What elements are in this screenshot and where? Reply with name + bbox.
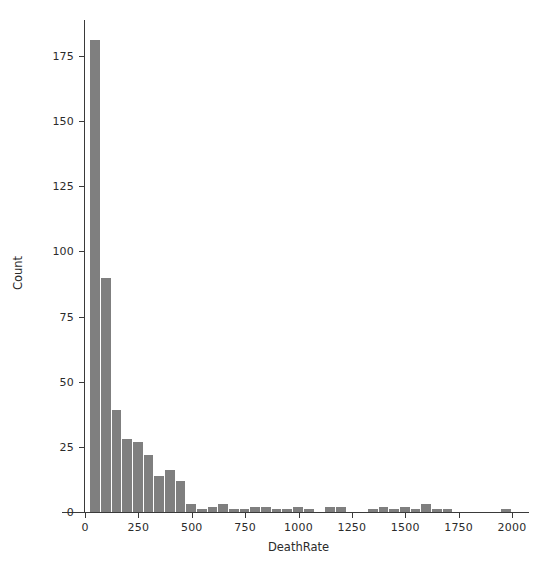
histogram-bar: [90, 40, 100, 512]
y-axis-line: [84, 20, 85, 513]
y-tick-mark: [79, 56, 84, 57]
histogram-bar: [176, 481, 186, 512]
y-tick-mark: [79, 512, 84, 513]
y-tick-label-group: 0255075100125150175: [22, 0, 74, 569]
x-tick-mark: [299, 513, 300, 518]
x-tick-label: 0: [55, 521, 115, 534]
y-tick-label: 0: [24, 506, 74, 519]
x-tick-mark: [245, 513, 246, 518]
y-tick-mark: [79, 317, 84, 318]
histogram-bar: [122, 439, 132, 512]
y-tick-label: 50: [24, 375, 74, 388]
histogram-bar: [133, 442, 143, 512]
x-tick-label: 1500: [375, 521, 435, 534]
x-tick-mark: [85, 513, 86, 518]
histogram-bar: [165, 470, 175, 512]
histogram-bar: [101, 278, 111, 513]
histogram-bar: [144, 455, 154, 512]
histogram-figure: 0255075100125150175 Count DeathRate 0250…: [0, 0, 549, 569]
y-tick-label: 175: [24, 50, 74, 63]
y-tick-mark: [79, 447, 84, 448]
x-tick-label: 1000: [269, 521, 329, 534]
x-tick-mark: [138, 513, 139, 518]
histogram-bar: [218, 504, 228, 512]
histogram-bar: [154, 476, 164, 512]
y-tick-label: 125: [24, 180, 74, 193]
plot-area: [85, 20, 512, 512]
y-tick-mark: [79, 186, 84, 187]
x-tick-label: 500: [162, 521, 222, 534]
histogram-bar: [186, 504, 196, 512]
x-tick-label: 1250: [322, 521, 382, 534]
y-tick-mark: [79, 251, 84, 252]
x-tick-label: 1750: [429, 521, 489, 534]
histogram-bar: [112, 410, 122, 512]
y-tick-label: 150: [24, 115, 74, 128]
y-tick-label: 25: [24, 440, 74, 453]
y-axis-title: Count: [11, 243, 25, 303]
y-tick-label: 100: [24, 245, 74, 258]
x-tick-mark: [405, 513, 406, 518]
histogram-bar: [421, 504, 431, 512]
y-tick-label: 75: [24, 310, 74, 323]
y-tick-mark: [79, 382, 84, 383]
x-tick-mark: [192, 513, 193, 518]
x-axis-title: DeathRate: [85, 540, 512, 554]
x-tick-label: 750: [215, 521, 275, 534]
x-tick-mark: [512, 513, 513, 518]
x-tick-label: 2000: [482, 521, 542, 534]
x-tick-mark: [459, 513, 460, 518]
x-tick-label: 250: [108, 521, 168, 534]
y-tick-mark: [79, 121, 84, 122]
x-tick-mark: [352, 513, 353, 518]
